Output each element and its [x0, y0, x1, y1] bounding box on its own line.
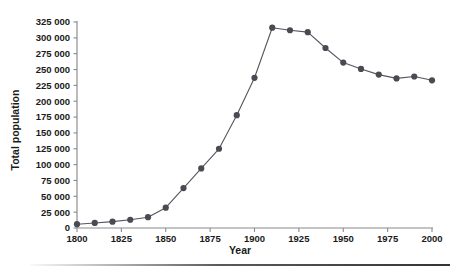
- data-point: [322, 45, 328, 51]
- data-point: [127, 217, 133, 223]
- data-point: [305, 29, 311, 35]
- y-tick-label: 250 000: [36, 64, 70, 75]
- data-point: [358, 66, 364, 72]
- x-tick-label: 1825: [111, 233, 133, 244]
- data-point: [180, 185, 186, 191]
- footer-rule: [30, 264, 450, 266]
- x-tick-label: 1875: [200, 233, 222, 244]
- x-tick-label: 1800: [66, 233, 87, 244]
- y-tick-label: 175 000: [36, 111, 70, 122]
- y-tick-label: 325 000: [36, 16, 70, 27]
- data-point: [145, 214, 151, 220]
- y-tick-label: 200 000: [36, 96, 70, 107]
- y-tick-label: 25 000: [41, 207, 70, 218]
- y-tick-label: 0: [65, 222, 70, 233]
- y-tick-label: 150 000: [36, 127, 70, 138]
- y-axis-title: Total population: [9, 90, 21, 171]
- y-tick-label: 125 000: [36, 143, 70, 154]
- x-tick-label: 1900: [244, 233, 265, 244]
- data-point: [393, 75, 399, 81]
- x-tick-label: 1925: [288, 233, 310, 244]
- y-tick-label: 75 000: [41, 175, 70, 186]
- x-tick-label: 1975: [377, 233, 399, 244]
- y-tick-label: 225 000: [36, 80, 70, 91]
- data-point: [269, 25, 275, 31]
- x-tick-label: 2000: [421, 233, 442, 244]
- chart-figure: 025 00050 00075 000100 000125 000150 000…: [0, 0, 456, 274]
- x-axis-title: Year: [229, 244, 251, 256]
- data-point: [429, 77, 435, 83]
- data-point: [376, 72, 382, 78]
- data-point: [340, 59, 346, 65]
- x-axis-tick-labels: 180018251850187519001925195019752000: [66, 233, 442, 244]
- data-point: [234, 112, 240, 118]
- data-point: [411, 73, 417, 79]
- y-tick-label: 100 000: [36, 159, 70, 170]
- data-point: [216, 146, 222, 152]
- data-point: [287, 27, 293, 33]
- x-tick-label: 1850: [155, 233, 176, 244]
- y-tick-label: 50 000: [41, 191, 70, 202]
- data-point: [251, 75, 257, 81]
- y-tick-label: 275 000: [36, 48, 70, 59]
- data-point: [163, 205, 169, 211]
- data-point: [198, 165, 204, 171]
- data-point: [74, 221, 80, 227]
- x-tick-label: 1950: [333, 233, 354, 244]
- data-point: [109, 219, 115, 225]
- y-tick-label: 300 000: [36, 32, 70, 43]
- data-point: [92, 220, 98, 226]
- population-line-chart: 025 00050 00075 000100 000125 000150 000…: [0, 0, 456, 274]
